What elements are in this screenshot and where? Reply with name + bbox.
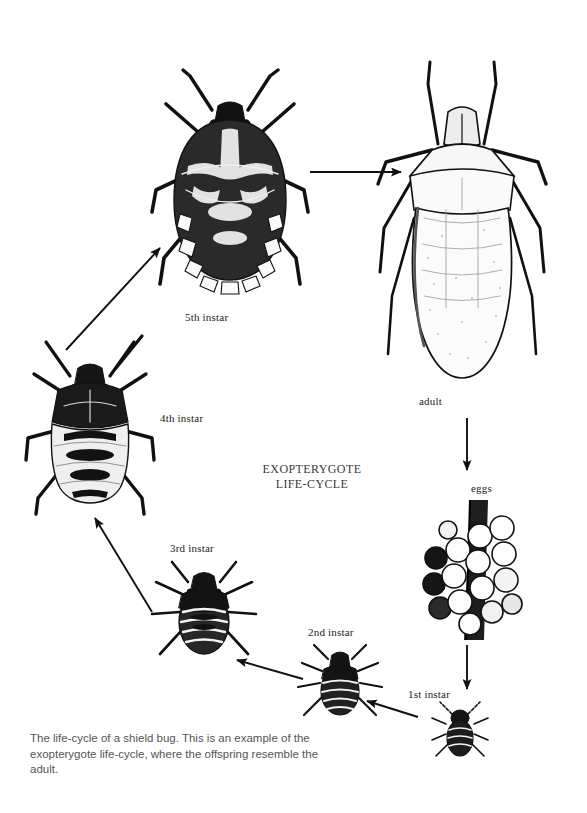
illustration-eggs (418, 500, 530, 640)
illustration-first-instar (428, 700, 492, 762)
label-eggs: eggs (471, 482, 492, 494)
illustration-adult (372, 58, 552, 390)
diagram-title: EXOPTERYGOTE LIFE-CYCLE (247, 462, 377, 492)
illustration-fourth-instar (24, 334, 156, 516)
figure-caption: The life-cycle of a shield bug. This is … (30, 731, 330, 778)
diagram-title-line2: LIFE-CYCLE (247, 477, 377, 492)
illustration-fifth-instar (150, 62, 310, 307)
label-fourth-instar: 4th instar (160, 412, 203, 424)
label-second-instar: 2nd instar (308, 626, 354, 638)
label-third-instar: 3rd instar (170, 542, 214, 554)
label-fifth-instar: 5th instar (185, 311, 228, 323)
label-first-instar: 1st instar (408, 688, 450, 700)
arrow-third-to-fourth (95, 518, 152, 612)
diagram-title-line1: EXOPTERYGOTE (247, 462, 377, 477)
illustration-second-instar (296, 643, 384, 727)
label-adult: adult (419, 395, 442, 407)
illustration-third-instar (150, 560, 258, 670)
